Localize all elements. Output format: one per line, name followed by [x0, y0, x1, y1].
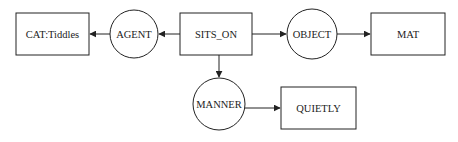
node-manner: MANNER — [193, 78, 245, 130]
node-label: CAT:Tiddles — [26, 29, 79, 40]
node-label: AGENT — [116, 29, 152, 40]
node-cat-tiddles: CAT:Tiddles — [16, 13, 89, 55]
node-object: OBJECT — [287, 9, 337, 59]
node-label: QUIETLY — [296, 103, 341, 114]
node-quietly: QUIETLY — [281, 87, 356, 129]
node-mat: MAT — [371, 13, 445, 55]
node-label: MANNER — [196, 99, 242, 110]
node-label: OBJECT — [293, 29, 332, 40]
node-sits-on: SITS_ON — [180, 13, 252, 55]
node-label: SITS_ON — [195, 29, 237, 40]
conceptual-graph-diagram: CAT:Tiddles AGENT SITS_ON OBJECT MAT MAN… — [0, 0, 458, 142]
node-label: MAT — [397, 29, 420, 40]
node-agent: AGENT — [110, 10, 158, 58]
